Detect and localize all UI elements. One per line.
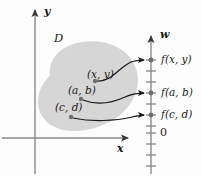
point-cd-dot xyxy=(69,115,73,119)
value-label-fxy: f(x, y) xyxy=(161,54,192,65)
value-label-fcd: f(c, d) xyxy=(161,109,192,120)
value-label-fab: f(a, b) xyxy=(161,87,193,98)
y-axis-label: y xyxy=(44,6,50,17)
x-axis-label: x xyxy=(117,143,124,154)
domain-label: D xyxy=(54,33,63,45)
point-label-ab: (a, b) xyxy=(68,85,96,96)
point-label-xy: (x, y) xyxy=(87,69,114,80)
value-fxy-dot xyxy=(149,58,154,63)
w-axis-label: w xyxy=(160,29,169,40)
value-fab-dot xyxy=(149,91,154,96)
origin-label: 0 xyxy=(160,127,167,138)
value-fcd-dot xyxy=(149,113,154,118)
function-mapping-diagram: y x w 0 D (x, y) (a, b) (c, d) f(x, y) f… xyxy=(0,0,201,176)
point-label-cd: (c, d) xyxy=(55,102,82,113)
